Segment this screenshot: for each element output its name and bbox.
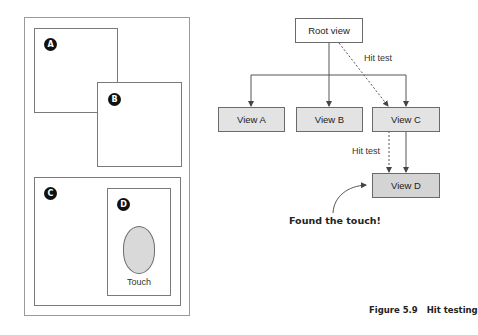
figure-caption: Figure 5.9 Hit testing bbox=[363, 295, 478, 315]
found-touch-annotation: Found the touch! bbox=[289, 215, 381, 226]
node-view-d: View D bbox=[372, 173, 440, 198]
figure-title: Hit testing bbox=[427, 305, 478, 315]
node-root-view: Root view bbox=[295, 18, 363, 43]
hit-test-label-2: Hit test bbox=[348, 146, 384, 156]
node-view-b: View B bbox=[296, 107, 363, 132]
node-view-c: View C bbox=[372, 107, 440, 132]
node-view-a: View A bbox=[218, 107, 285, 132]
figure-number: Figure 5.9 bbox=[369, 305, 418, 315]
hit-test-label-1: Hit test bbox=[358, 53, 398, 63]
